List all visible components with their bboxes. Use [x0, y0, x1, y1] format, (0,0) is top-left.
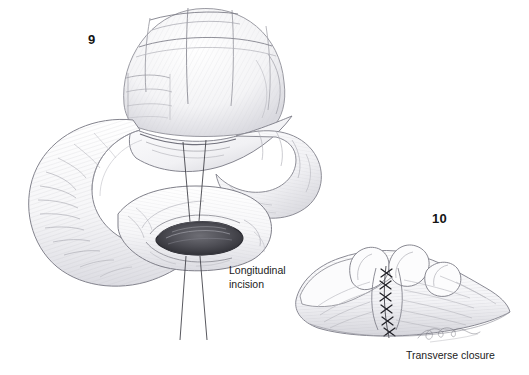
caption-longitudinal-incision: Longitudinal incision — [229, 264, 286, 291]
caption-transverse-closure: Transverse closure — [406, 349, 495, 363]
fig9-dome — [124, 8, 285, 137]
illustration-page: 9 10 Longitudinal incision Transverse cl… — [0, 0, 529, 375]
figure-10-number: 10 — [432, 211, 447, 226]
fig9-incision-segment — [118, 186, 271, 271]
figure-9-number: 9 — [88, 32, 95, 47]
figure-10-artwork — [296, 245, 510, 338]
surgical-illustration-artwork — [0, 0, 529, 375]
